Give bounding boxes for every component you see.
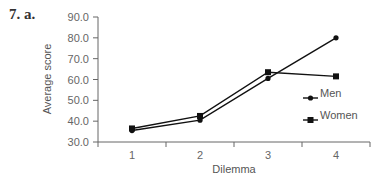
legend-circle-icon: [308, 95, 313, 100]
circle-marker: [333, 35, 338, 40]
series-line-men: [132, 38, 336, 131]
y-tick-label: 80.0: [68, 32, 89, 44]
line-chart: 30.040.050.060.070.080.090.01234 MenWome…: [0, 0, 381, 181]
axes: 30.040.050.060.070.080.090.01234: [68, 11, 370, 161]
y-tick-label: 40.0: [68, 115, 89, 127]
x-tick-label: 2: [197, 149, 203, 161]
y-tick-label: 70.0: [68, 53, 89, 65]
y-tick-label: 60.0: [68, 74, 89, 86]
legend-square-icon: [308, 117, 314, 123]
legend-label-women: Women: [320, 109, 358, 121]
square-marker: [333, 73, 339, 79]
y-tick-label: 50.0: [68, 94, 89, 106]
square-marker: [197, 113, 203, 119]
circle-marker: [265, 76, 270, 81]
y-tick-label: 90.0: [68, 11, 89, 23]
x-tick-label: 1: [129, 149, 135, 161]
square-marker: [129, 125, 135, 131]
x-tick-label: 3: [265, 149, 271, 161]
y-axis-title: Average score: [41, 44, 53, 115]
square-marker: [265, 69, 271, 75]
x-axis-title: Dilemma: [212, 163, 256, 175]
y-tick-label: 30.0: [68, 136, 89, 148]
legend-label-men: Men: [320, 87, 341, 99]
legend: MenWomen: [303, 87, 358, 123]
x-tick-label: 4: [333, 149, 339, 161]
